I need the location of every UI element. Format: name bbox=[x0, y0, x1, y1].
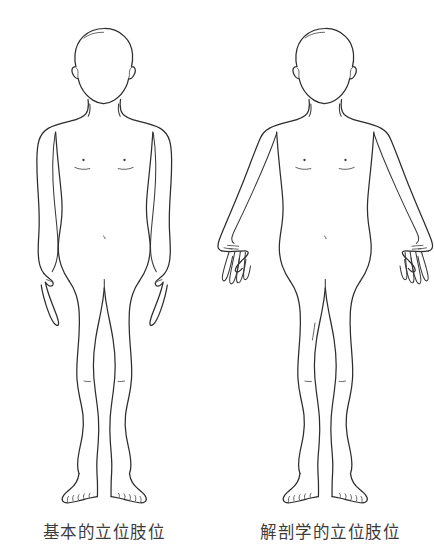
inner-leg-right-anatomical bbox=[325, 288, 336, 497]
ear-right-basic bbox=[129, 68, 132, 79]
pectoral-fold-left-anatomical bbox=[296, 167, 311, 169]
ear-left-basic bbox=[76, 68, 78, 79]
human-figure-basic-standing-icon bbox=[0, 0, 217, 510]
knee-right-anatomical bbox=[339, 381, 345, 382]
hand-right-basic bbox=[150, 274, 167, 326]
palm-crease-left-anatomical bbox=[228, 245, 239, 246]
torso-arm-right-basic bbox=[120, 100, 171, 274]
navel-basic bbox=[103, 236, 105, 239]
pectoral-fold-right-anatomical bbox=[339, 167, 354, 169]
hand-left-basic bbox=[41, 274, 58, 326]
human-figure-anatomical-standing-icon bbox=[217, 0, 434, 510]
caption-anatomical-standing-position: 解剖学的立位肢位 bbox=[260, 519, 400, 543]
standing-positions-diagram: 基本的立位肢位 解剖学的立位肢位 bbox=[0, 0, 434, 549]
leg-outer-right-basic bbox=[125, 281, 139, 473]
caption-cell-anatomical: 解剖学的立位肢位 bbox=[220, 512, 434, 549]
leg-outer-left-anatomical bbox=[290, 281, 304, 473]
torso-waist-right-anatomical bbox=[360, 132, 374, 281]
knee-left-anatomical bbox=[305, 381, 311, 382]
body-silhouette-anatomical bbox=[218, 28, 433, 502]
pectoral-fold-left-basic bbox=[75, 167, 90, 169]
figure-panel-basic-standing bbox=[0, 0, 217, 510]
nipple-right-basic bbox=[123, 159, 125, 161]
pectoral-fold-right-basic bbox=[118, 167, 133, 169]
head-outline-anatomical bbox=[293, 28, 356, 103]
caption-row: 基本的立位肢位 解剖学的立位肢位 bbox=[0, 512, 434, 549]
torso-arm-left-basic bbox=[37, 100, 88, 274]
torso-waist-left-anatomical bbox=[277, 132, 291, 281]
body-silhouette-basic bbox=[37, 28, 172, 502]
torso-waist-left-basic bbox=[56, 132, 70, 281]
knee-right-basic bbox=[118, 381, 124, 382]
inner-leg-left-anatomical bbox=[314, 288, 325, 497]
figure-panel-anatomical-standing bbox=[217, 0, 434, 510]
torso-waist-right-basic bbox=[139, 132, 153, 281]
inner-arm-line-left-anatomical bbox=[232, 133, 277, 243]
caption-basic-standing-position: 基本的立位肢位 bbox=[43, 519, 166, 543]
shoulder-arm-outer-left-anatomical bbox=[218, 100, 309, 251]
navel-anatomical bbox=[324, 236, 326, 239]
ear-right-anatomical bbox=[350, 68, 353, 79]
inner-arm-line-right-anatomical bbox=[374, 133, 419, 243]
fingers-left-anatomical bbox=[222, 252, 232, 281]
shoulder-arm-outer-right-anatomical bbox=[341, 100, 432, 251]
knee-left-basic bbox=[84, 381, 90, 382]
fingers-right-anatomical bbox=[418, 252, 428, 281]
finger-4-right-anatomical bbox=[400, 252, 407, 279]
palm-crease-right-anatomical bbox=[412, 245, 423, 246]
finger-4-left-anatomical bbox=[244, 252, 251, 279]
nipple-right-anatomical bbox=[344, 159, 346, 161]
ear-left-anatomical bbox=[297, 68, 299, 79]
nipple-left-basic bbox=[82, 159, 84, 161]
leg-outer-right-anatomical bbox=[346, 281, 360, 473]
leg-outer-left-basic bbox=[69, 281, 83, 473]
head-outline-basic bbox=[72, 28, 135, 103]
inner-leg-right-basic bbox=[104, 288, 115, 497]
nipple-left-anatomical bbox=[303, 159, 305, 161]
caption-cell-basic: 基本的立位肢位 bbox=[0, 512, 220, 549]
inner-leg-left-basic bbox=[93, 288, 104, 497]
thigh-line-left-anatomical bbox=[312, 323, 315, 340]
